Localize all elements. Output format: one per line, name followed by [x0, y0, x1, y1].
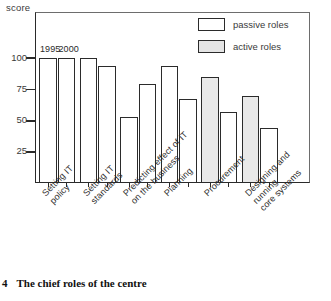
x-axis-label: Setting IT policy	[40, 163, 83, 206]
figure-chief-roles-of-the-centre: score passive roles active roles 2550751…	[0, 0, 331, 301]
x-axis-label: Designing and running core systems	[243, 128, 328, 213]
caption-number: 4	[2, 277, 8, 289]
caption-text: The chief roles of the centre	[17, 277, 147, 289]
x-axis-label: Procurement	[202, 154, 247, 199]
year-annotation-1995: 1995	[40, 44, 60, 54]
year-annotation-2000: 2000	[59, 44, 79, 54]
figure-caption: 4The chief roles of the centre	[2, 277, 147, 289]
x-axis-label: Setting IT standards	[81, 162, 124, 205]
